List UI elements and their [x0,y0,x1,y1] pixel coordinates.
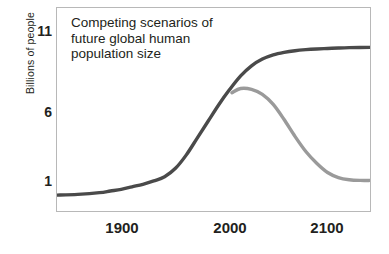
y-tick-label-11: 11 [26,23,52,39]
chart-title: Competing scenarios of future global hum… [71,15,213,62]
x-tick-label-2100: 2100 [292,219,362,236]
y-tick-label-6: 6 [26,104,52,120]
y-axis-tick-labels: 11 6 1 [22,0,52,254]
y-tick-label-1: 1 [26,173,52,189]
plot-area: Competing scenarios of future global hum… [56,7,371,212]
x-tick-label-2000: 2000 [195,219,265,236]
chart-figure: Billions of people 11 6 1 1900 2000 2100… [0,0,389,254]
x-tick-label-1900: 1900 [87,219,157,236]
